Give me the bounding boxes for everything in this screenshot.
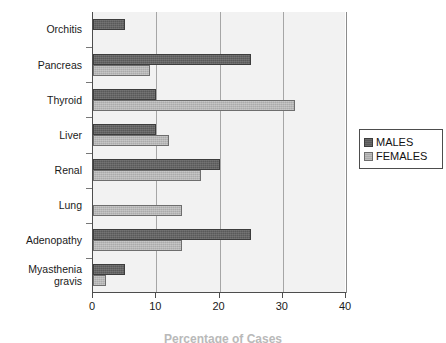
bar-males bbox=[93, 54, 251, 65]
chart-caption: Percentage of Cases bbox=[0, 333, 446, 343]
legend-label-females: FEMALES bbox=[376, 150, 427, 162]
bar-group bbox=[93, 47, 345, 82]
bar-males bbox=[93, 264, 125, 275]
bar-group bbox=[93, 188, 345, 223]
y-axis-tick bbox=[86, 117, 92, 118]
x-axis-tick-label: 40 bbox=[339, 300, 351, 312]
y-axis-label: Orchitis bbox=[0, 12, 88, 47]
gridline bbox=[346, 12, 347, 293]
legend-item-females: FEMALES bbox=[364, 150, 439, 162]
y-axis-label: Lung bbox=[0, 188, 88, 223]
bar-females bbox=[93, 100, 295, 111]
bar-group bbox=[93, 153, 345, 188]
bar-females bbox=[93, 240, 182, 251]
bar-groups bbox=[93, 12, 345, 293]
x-axis-tick bbox=[282, 293, 283, 298]
x-axis-tick-label: 10 bbox=[149, 300, 161, 312]
chart-legend: MALES FEMALES bbox=[359, 129, 443, 169]
y-axis-category-labels: OrchitisPancreasThyroidLiverRenalLungAde… bbox=[0, 12, 88, 293]
x-axis-tick bbox=[345, 293, 346, 298]
bar-females bbox=[93, 275, 106, 286]
bar-females bbox=[93, 205, 182, 216]
legend-item-males: MALES bbox=[364, 136, 439, 148]
bar-males bbox=[93, 19, 125, 30]
legend-swatch-males-icon bbox=[364, 138, 373, 147]
x-axis-tick bbox=[155, 293, 156, 298]
bar-males bbox=[93, 229, 251, 240]
legend-label-males: MALES bbox=[376, 136, 413, 148]
x-axis-tick-label: 20 bbox=[212, 300, 224, 312]
y-axis-tick bbox=[86, 153, 92, 154]
x-axis-tick-label: 30 bbox=[276, 300, 288, 312]
plot-area bbox=[92, 12, 345, 293]
bar-males bbox=[93, 89, 156, 100]
y-axis-tick bbox=[86, 188, 92, 189]
y-axis-tick bbox=[86, 258, 92, 259]
y-axis-label: Liver bbox=[0, 117, 88, 152]
bar-females bbox=[93, 170, 201, 181]
bar-females bbox=[93, 135, 169, 146]
bar-group bbox=[93, 117, 345, 152]
chart-figure: OrchitisPancreasThyroidLiverRenalLungAde… bbox=[0, 0, 446, 343]
x-axis-tick bbox=[219, 293, 220, 298]
bar-males bbox=[93, 124, 156, 135]
y-axis-label: Pancreas bbox=[0, 47, 88, 82]
bar-males bbox=[93, 159, 220, 170]
x-axis-tick bbox=[92, 293, 93, 298]
bar-group bbox=[93, 82, 345, 117]
legend-swatch-females-icon bbox=[364, 152, 373, 161]
bar-females bbox=[93, 65, 150, 76]
y-axis-label: Thyroid bbox=[0, 82, 88, 117]
bar-group bbox=[93, 12, 345, 47]
bar-group bbox=[93, 258, 345, 293]
y-axis-label: Renal bbox=[0, 153, 88, 188]
y-axis-label: Myasthenia gravis bbox=[0, 258, 88, 293]
y-axis-tick bbox=[86, 82, 92, 83]
y-axis-tick bbox=[86, 47, 92, 48]
x-axis-tick-label: 0 bbox=[89, 300, 95, 312]
y-axis-tick bbox=[86, 223, 92, 224]
bar-group bbox=[93, 223, 345, 258]
y-axis-label: Adenopathy bbox=[0, 223, 88, 258]
